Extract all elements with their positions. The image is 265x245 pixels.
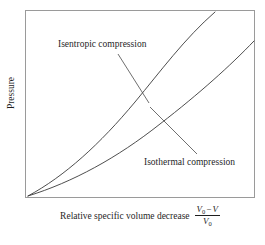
isentropic-curve	[28, 12, 215, 196]
curve-layer	[25, 10, 255, 198]
fraction-denominator: V0	[201, 216, 214, 227]
denominator-v0-subscript: 0	[208, 220, 211, 227]
isothermal-curve	[28, 41, 254, 196]
y-axis-title: Pressure	[6, 60, 16, 126]
numerator-v-symbol: V	[212, 204, 218, 214]
relative-volume-fraction: V0−V V0	[195, 204, 220, 227]
pressure-volume-figure: Isentropic compression Isothermal compre…	[0, 0, 265, 245]
numerator-v0-subscript: 0	[202, 208, 205, 215]
x-axis-title: Relative specific volume decrease V0−V V…	[25, 204, 255, 227]
fraction-numerator: V0−V	[195, 204, 220, 216]
x-axis-title-text: Relative specific volume decrease	[60, 211, 190, 221]
